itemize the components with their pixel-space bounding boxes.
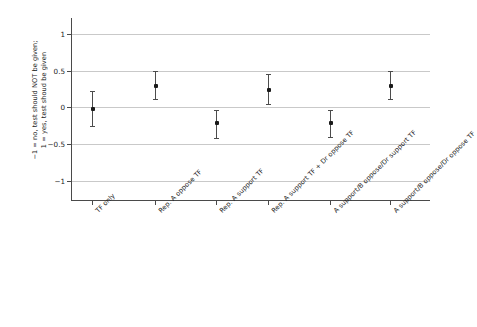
- error-bar-cap-upper: [90, 91, 95, 92]
- x-tick-mark: [390, 200, 391, 205]
- y-tick-label: −0.5: [48, 139, 65, 148]
- x-tick-mark: [330, 200, 331, 205]
- x-tick-mark: [155, 200, 156, 205]
- y-tick-label: 1: [60, 30, 65, 39]
- error-bar-cap-lower: [153, 99, 158, 100]
- y-tick-label: 0.5: [54, 66, 65, 75]
- y-tick-label: −1: [54, 176, 65, 185]
- x-tick-mark: [92, 200, 93, 205]
- data-point: [329, 121, 333, 125]
- y-tick-mark: [67, 107, 71, 108]
- y-tick-mark: [67, 181, 71, 182]
- data-point: [154, 84, 158, 88]
- gridline: [72, 34, 430, 35]
- y-axis-line: [71, 18, 72, 201]
- x-tick-mark: [268, 200, 269, 205]
- data-point: [215, 121, 219, 125]
- error-bar-cap-lower: [266, 104, 271, 105]
- y-tick-label: 0: [60, 103, 65, 112]
- x-tick-mark: [216, 200, 217, 205]
- gridline: [72, 71, 430, 72]
- y-tick-mark: [67, 34, 71, 35]
- data-point: [267, 88, 271, 92]
- y-tick-mark: [67, 144, 71, 145]
- error-bar-cap-lower: [214, 138, 219, 139]
- error-bar-cap-lower: [90, 126, 95, 127]
- data-point: [91, 107, 95, 111]
- error-bar-cap-upper: [214, 110, 219, 111]
- x-axis-line: [71, 200, 430, 201]
- gridline: [72, 107, 430, 108]
- error-bar-cap-upper: [328, 110, 333, 111]
- error-bar-cap-lower: [388, 99, 393, 100]
- data-point: [389, 84, 393, 88]
- error-bar-cap-upper: [266, 74, 271, 75]
- gridline: [72, 144, 430, 145]
- error-bar-cap-lower: [328, 137, 333, 138]
- error-bar-cap-upper: [153, 71, 158, 72]
- error-bar-cap-upper: [388, 71, 393, 72]
- y-axis-title-line-1: −1 = no, test should NOT be given;: [31, 40, 40, 159]
- y-tick-mark: [67, 71, 71, 72]
